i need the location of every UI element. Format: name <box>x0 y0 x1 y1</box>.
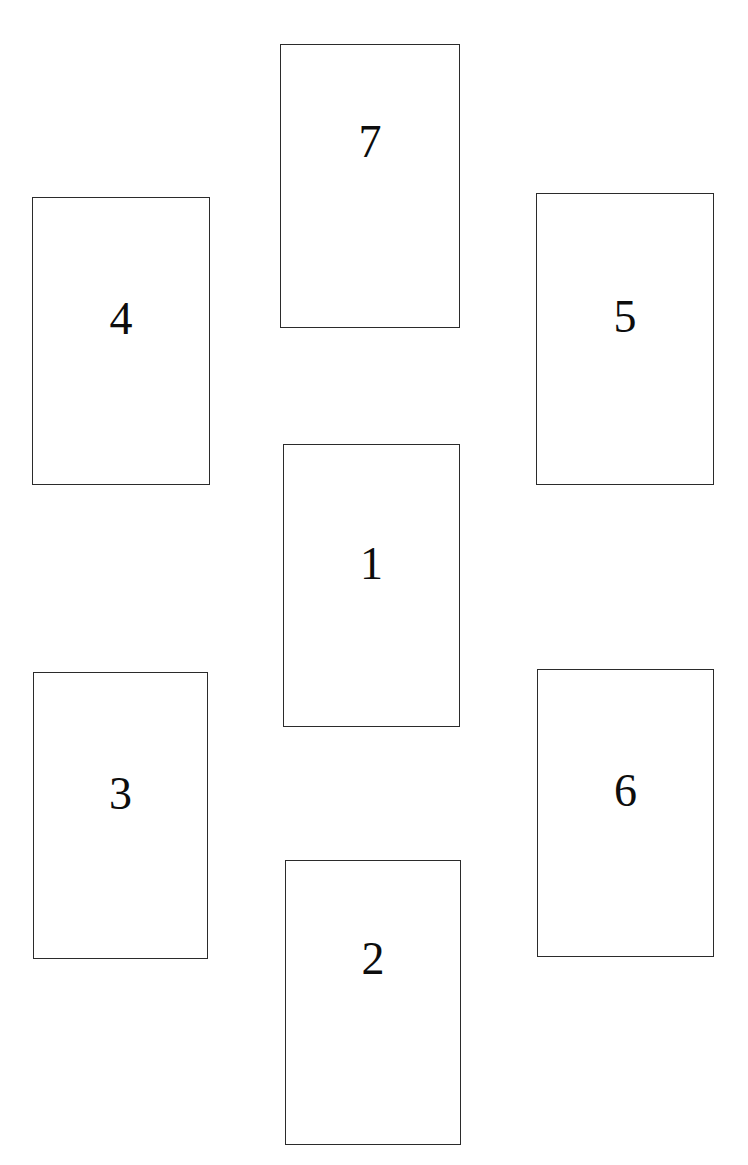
box-6-label: 6 <box>614 768 637 814</box>
box-7[interactable]: 7 <box>280 44 460 328</box>
box-7-label: 7 <box>359 119 382 165</box>
box-2-label: 2 <box>362 936 385 982</box>
box-5-label: 5 <box>614 294 637 340</box>
box-3-label: 3 <box>109 771 132 817</box>
box-1-label: 1 <box>360 541 383 587</box>
diagram-canvas: 7451362 <box>0 0 748 1165</box>
box-3[interactable]: 3 <box>33 672 208 959</box>
box-5[interactable]: 5 <box>536 193 714 485</box>
box-4-label: 4 <box>110 296 133 342</box>
box-6[interactable]: 6 <box>537 669 714 957</box>
box-4[interactable]: 4 <box>32 197 210 485</box>
box-2[interactable]: 2 <box>285 860 461 1145</box>
box-1[interactable]: 1 <box>283 444 460 727</box>
